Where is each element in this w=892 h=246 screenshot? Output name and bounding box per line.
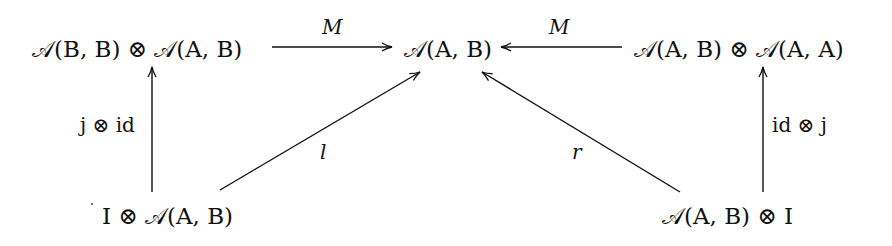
node-top-right: 𝒜(A, B) ⊗ 𝒜(A, A) bbox=[634, 38, 844, 61]
label-j-id: j ⊗ id bbox=[80, 115, 135, 135]
label-r: r bbox=[572, 142, 582, 162]
node-top-center: 𝒜(A, B) bbox=[404, 38, 492, 61]
stray-dot bbox=[91, 203, 93, 205]
arrow-r bbox=[482, 72, 680, 192]
commutative-diagram: 𝒜(B, B) ⊗ 𝒜(A, B) 𝒜(A, B) 𝒜(A, B) ⊗ 𝒜(A,… bbox=[0, 0, 892, 246]
node-bottom-right: 𝒜(A, B) ⊗ I bbox=[662, 205, 793, 228]
label-l: l bbox=[320, 142, 326, 162]
node-bottom-left: I ⊗ 𝒜(A, B) bbox=[102, 205, 233, 228]
arrow-l bbox=[220, 72, 420, 190]
label-m-left: M bbox=[322, 17, 342, 37]
label-id-j: id ⊗ j bbox=[772, 115, 827, 135]
node-top-left: 𝒜(B, B) ⊗ 𝒜(A, B) bbox=[32, 38, 242, 61]
label-m-right: M bbox=[549, 17, 569, 37]
